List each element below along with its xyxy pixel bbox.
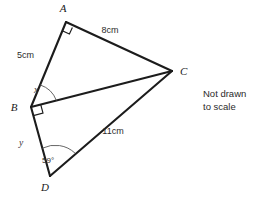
- edge-AC: [66, 22, 172, 71]
- geometry-figure-container: A B C D 5cm 8cm 11cm x y 59° Not drawn t…: [0, 0, 260, 197]
- angle-label-x: x: [33, 85, 39, 95]
- vertex-label-B: B: [11, 101, 18, 113]
- vertex-label-D: D: [40, 181, 49, 193]
- length-label-AB: 5cm: [17, 50, 34, 60]
- not-to-scale-note: Not drawn to scale: [203, 88, 246, 112]
- vertex-labels: A B C D: [11, 2, 188, 193]
- vertex-label-C: C: [180, 65, 188, 77]
- note-line-2: to scale: [203, 101, 236, 112]
- length-label-AC: 8cm: [101, 25, 118, 35]
- figure-edges: [31, 22, 172, 176]
- edge-BD: [31, 107, 50, 176]
- note-line-1: Not drawn: [203, 88, 246, 99]
- length-label-DC: 11cm: [102, 126, 123, 136]
- angle-label-59: 59°: [42, 156, 54, 165]
- angle-label-y: y: [18, 138, 24, 148]
- geometry-diagram: A B C D 5cm 8cm 11cm x y 59° Not drawn t…: [0, 0, 260, 197]
- angle-arc-59: [42, 145, 75, 153]
- angle-arc-x: [40, 85, 56, 101]
- vertex-label-A: A: [59, 2, 67, 14]
